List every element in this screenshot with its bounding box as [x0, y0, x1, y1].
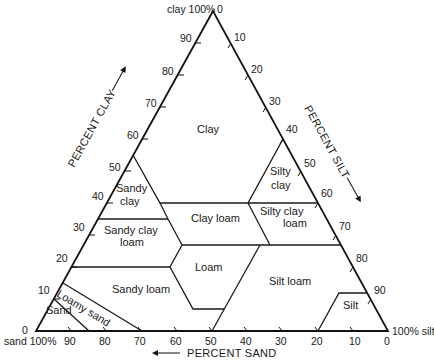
svg-text:90: 90 — [374, 284, 386, 296]
svg-text:60: 60 — [170, 335, 182, 347]
silt-tick-labels: 10 20 30 40 50 60 70 80 90 — [234, 31, 386, 296]
region-sandy-loam: Sandy loam — [112, 283, 170, 295]
svg-text:30: 30 — [269, 95, 281, 107]
region-silty-clay-loam: Silty clay — [260, 205, 304, 217]
svg-text:20: 20 — [56, 252, 68, 264]
clay-tick-labels: 90 80 70 60 50 40 30 20 10 — [38, 32, 192, 296]
vertex-clay-label: clay 100% — [167, 3, 215, 15]
region-clay-loam: Clay loam — [191, 212, 240, 224]
clay-tick-0: 0 — [22, 324, 28, 336]
svg-text:70: 70 — [339, 220, 351, 232]
svg-text:10: 10 — [349, 335, 361, 347]
svg-text:90: 90 — [180, 32, 192, 44]
region-sandy-clay-2: clay — [120, 195, 140, 207]
region-sandy-clay-loam: Sandy clay — [104, 224, 158, 236]
svg-text:50: 50 — [205, 335, 217, 347]
svg-text:0: 0 — [384, 335, 390, 347]
svg-text:50: 50 — [109, 161, 121, 173]
svg-text:PERCENT CLAY: PERCENT CLAY — [65, 87, 118, 169]
svg-text:80: 80 — [356, 252, 368, 264]
vertex-silt-label: 100% silt — [392, 325, 434, 337]
svg-text:90: 90 — [64, 335, 76, 347]
svg-text:40: 40 — [240, 335, 252, 347]
svg-text:PERCENT SAND: PERCENT SAND — [187, 347, 277, 359]
region-silty-clay: Silty — [270, 165, 291, 177]
svg-text:30: 30 — [73, 221, 85, 233]
triangle-outline — [36, 11, 388, 331]
svg-text:10: 10 — [38, 284, 50, 296]
region-silt-loam: Silt loam — [269, 275, 311, 287]
svg-text:20: 20 — [311, 335, 323, 347]
region-sandy-clay-loam-2: loam — [120, 236, 144, 248]
top-zero-label: 0 — [217, 3, 223, 15]
region-silt: Silt — [343, 299, 358, 311]
svg-text:50: 50 — [304, 157, 316, 169]
svg-text:70: 70 — [145, 97, 157, 109]
region-clay: Clay — [197, 123, 220, 135]
region-sand: Sand — [46, 304, 72, 316]
svg-text:80: 80 — [162, 65, 174, 77]
svg-text:80: 80 — [99, 335, 111, 347]
svg-text:30: 30 — [275, 335, 287, 347]
soil-texture-triangle: clay 100% 0 sand 100% 100% silt 0 90 80 … — [0, 0, 434, 360]
vertex-sand-label: sand 100% — [4, 335, 57, 347]
svg-text:20: 20 — [251, 63, 263, 75]
svg-text:60: 60 — [127, 129, 139, 141]
region-silty-clay-loam-2: loam — [283, 217, 307, 229]
region-boundaries — [54, 139, 367, 331]
region-silty-clay-2: clay — [271, 179, 291, 191]
region-labels: Clay Sandy clay Silty clay Sandy clay lo… — [46, 123, 358, 329]
svg-text:40: 40 — [92, 190, 104, 202]
svg-text:10: 10 — [234, 31, 246, 43]
clay-axis-ticks — [54, 43, 201, 299]
svg-text:70: 70 — [134, 335, 146, 347]
sand-tick-labels: 90 80 70 60 50 40 30 20 10 0 — [64, 335, 390, 347]
svg-text:40: 40 — [286, 123, 298, 135]
clay-axis-title: PERCENT CLAY — [65, 63, 131, 169]
sand-axis-title: PERCENT SAND — [152, 347, 277, 359]
region-sandy-clay: Sandy — [116, 182, 148, 194]
region-loam: Loam — [195, 261, 223, 273]
svg-text:60: 60 — [321, 187, 333, 199]
